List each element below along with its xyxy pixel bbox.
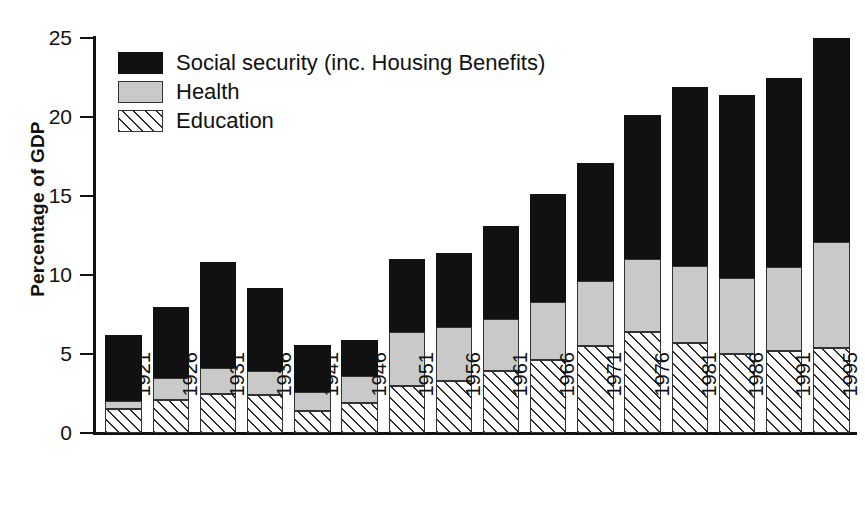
- x-axis-tick-label: 1971: [603, 352, 626, 442]
- bar-segment-health: [577, 281, 613, 346]
- y-axis-tick-label: 0: [30, 422, 72, 443]
- y-axis-label: Percentage of GDP: [27, 79, 49, 339]
- x-axis-tick-label: 1976: [651, 352, 674, 442]
- bar-segment-social_security: [624, 115, 660, 259]
- bar-segment-social_security: [577, 163, 613, 282]
- x-axis-tick-label: 1991: [792, 352, 815, 442]
- y-axis-tick-label: 25: [30, 27, 72, 48]
- bar-segment-social_security: [672, 87, 708, 266]
- x-axis-tick-label: 1926: [179, 352, 202, 442]
- bar-segment-health: [672, 266, 708, 343]
- y-axis-tick: [80, 195, 93, 197]
- x-axis-tick-label: 1931: [226, 352, 249, 442]
- bar-segment-social_security: [766, 78, 802, 268]
- x-axis-tick-label: 1921: [132, 352, 155, 442]
- legend-swatch-health-icon: [118, 81, 163, 103]
- chart-legend: Social security (inc. Housing Benefits)H…: [118, 50, 545, 137]
- x-axis-tick-label: 1981: [698, 352, 721, 442]
- x-axis-tick-label: 1961: [509, 352, 532, 442]
- legend-label: Social security (inc. Housing Benefits): [176, 52, 545, 74]
- legend-label: Health: [176, 81, 240, 103]
- x-axis-tick-label: 1966: [556, 352, 579, 442]
- x-axis-tick-label: 1995: [839, 352, 862, 442]
- bar-segment-social_security: [483, 226, 519, 319]
- y-axis-tick: [80, 116, 93, 118]
- bar-segment-health: [766, 267, 802, 351]
- bar-segment-social_security: [530, 194, 566, 301]
- bar-segment-health: [719, 278, 755, 354]
- x-axis-tick-label: 1956: [462, 352, 485, 442]
- y-axis-line: [93, 36, 96, 435]
- x-axis-tick-label: 1936: [273, 352, 296, 442]
- bar-segment-social_security: [389, 259, 425, 332]
- y-axis-tick: [80, 274, 93, 276]
- bar-segment-health: [624, 259, 660, 332]
- legend-swatch-social_security-icon: [118, 52, 163, 74]
- y-axis-tick: [80, 353, 93, 355]
- bar-segment-social_security: [813, 38, 849, 242]
- legend-item-health: Health: [118, 79, 545, 104]
- legend-item-social_security: Social security (inc. Housing Benefits): [118, 50, 545, 75]
- y-axis-tick: [80, 432, 93, 434]
- x-axis-tick-label: 1951: [415, 352, 438, 442]
- y-axis-tick: [80, 37, 93, 39]
- bar-segment-social_security: [436, 253, 472, 327]
- x-axis-tick-label: 1986: [745, 352, 768, 442]
- bar-segment-social_security: [719, 95, 755, 278]
- x-axis-tick-label: 1941: [320, 352, 343, 442]
- chart-figure: 0510152025 Percentage of GDP 19211926193…: [0, 0, 865, 519]
- x-axis-tick-label: 1946: [368, 352, 391, 442]
- legend-swatch-education-icon: [118, 110, 163, 132]
- bar-segment-health: [813, 242, 849, 348]
- legend-item-education: Education: [118, 108, 545, 133]
- legend-label: Education: [176, 110, 274, 132]
- y-axis-tick-label: 5: [30, 343, 72, 364]
